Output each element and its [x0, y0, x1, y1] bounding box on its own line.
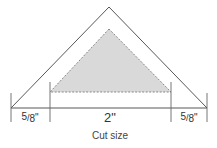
left-seam-unit: ": [35, 112, 39, 123]
right-seam-unit: ": [194, 112, 198, 123]
right-seam-label: 5/8": [180, 111, 198, 124]
cut-size-diagram: 5/8" 2" 5/8" Cut size: [0, 0, 217, 148]
caption: Cut size: [92, 130, 129, 141]
finished-width-label: 2": [104, 110, 116, 125]
left-seam-label: 5/8": [21, 111, 39, 124]
finished-triangle: [50, 29, 171, 92]
